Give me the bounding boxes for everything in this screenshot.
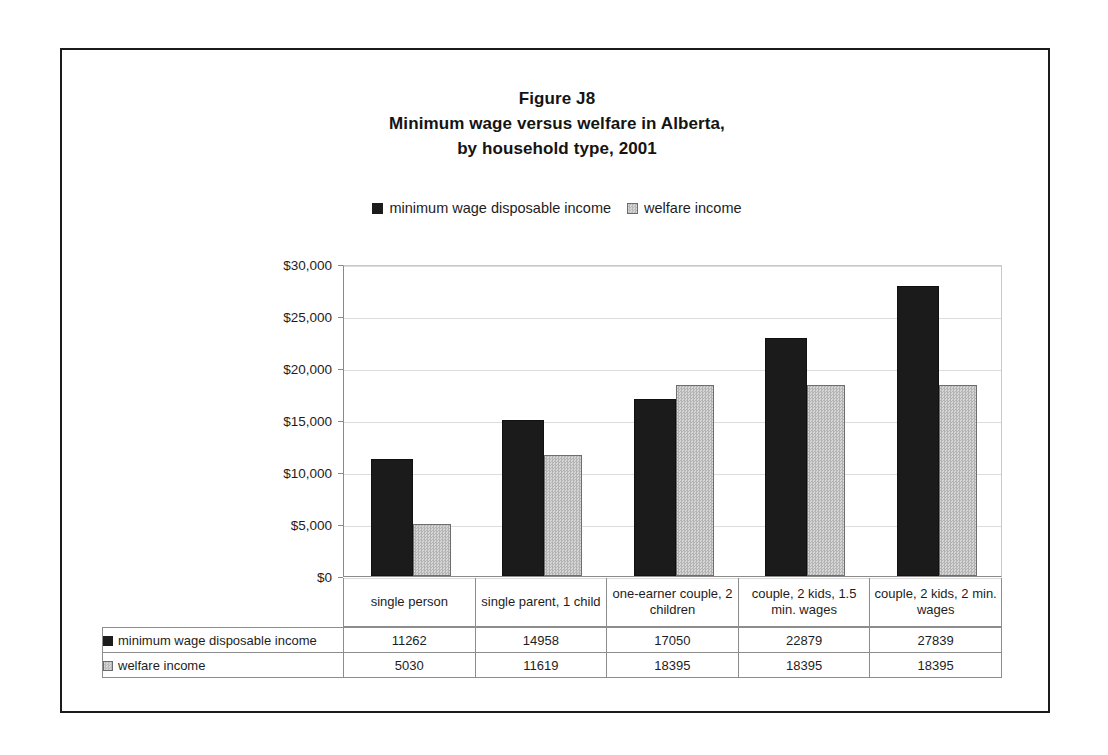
y-axis-tick-label: $0 xyxy=(317,570,332,585)
light-square-icon xyxy=(627,203,638,214)
table-series-name-cell: welfare income xyxy=(103,653,344,678)
y-axis-tick-mark xyxy=(338,421,343,422)
table-value-cell: 18395 xyxy=(607,653,739,678)
table-series-name-cell: minimum wage disposable income xyxy=(103,628,344,653)
data-table-body: minimum wage disposable income1126214958… xyxy=(103,628,1002,678)
table-series-label: welfare income xyxy=(118,658,205,673)
table-value-cell: 14958 xyxy=(475,628,607,653)
legend-entry-welfare: welfare income xyxy=(627,200,742,216)
category-axis-row: single personsingle parent, 1 childone-e… xyxy=(343,578,1002,627)
legend-label-welfare: welfare income xyxy=(644,200,742,216)
table-value-cell: 5030 xyxy=(343,653,475,678)
y-axis-tick-mark xyxy=(338,317,343,318)
chart-legend: minimum wage disposable income welfare i… xyxy=(62,200,1052,216)
table-value-cell: 17050 xyxy=(607,628,739,653)
bar-group xyxy=(344,266,475,576)
y-axis-tick-label: $5,000 xyxy=(291,518,332,533)
plot-wrap: $0$5,000$10,000$15,000$20,000$25,000$30,… xyxy=(343,265,1002,577)
y-axis-tick-label: $25,000 xyxy=(283,310,332,325)
table-value-cell: 18395 xyxy=(738,653,870,678)
table-row: welfare income503011619183951839518395 xyxy=(103,653,1002,678)
legend-label-minimum-wage: minimum wage disposable income xyxy=(389,200,611,216)
y-axis-tick-label: $20,000 xyxy=(283,362,332,377)
bars-layer xyxy=(344,266,1001,576)
figure-title-line-3: by household type, 2001 xyxy=(62,136,1052,161)
y-axis-tick-label: $30,000 xyxy=(283,258,332,273)
y-axis-tick-mark xyxy=(338,369,343,370)
bar xyxy=(807,385,845,576)
y-axis-tick-mark xyxy=(338,473,343,474)
bar xyxy=(544,455,582,576)
bar-group xyxy=(607,266,738,576)
data-table: minimum wage disposable income1126214958… xyxy=(102,627,1002,678)
dark-square-icon xyxy=(372,203,383,214)
category-label: single person xyxy=(343,578,475,626)
figure-frame: Figure J8 Minimum wage versus welfare in… xyxy=(60,48,1050,713)
y-axis-tick-mark xyxy=(338,265,343,266)
dark-square-icon xyxy=(103,636,113,646)
y-axis-tick-label: $15,000 xyxy=(283,414,332,429)
bar xyxy=(371,459,413,576)
table-value-cell: 18395 xyxy=(870,653,1002,678)
bar xyxy=(634,399,676,576)
bar-group xyxy=(738,266,869,576)
figure-title: Figure J8 Minimum wage versus welfare in… xyxy=(62,86,1052,161)
category-label: couple, 2 kids, 1.5 min. wages xyxy=(738,578,870,626)
light-square-icon xyxy=(103,661,113,671)
table-value-cell: 11619 xyxy=(475,653,607,678)
category-label: couple, 2 kids, 2 min. wages xyxy=(869,578,1002,626)
bar xyxy=(765,338,807,576)
category-label: one-earner couple, 2 children xyxy=(606,578,738,626)
table-value-cell: 27839 xyxy=(870,628,1002,653)
category-label: single parent, 1 child xyxy=(475,578,607,626)
plot-area xyxy=(343,265,1002,577)
table-value-cell: 11262 xyxy=(343,628,475,653)
bar xyxy=(413,524,451,576)
bar-group xyxy=(475,266,606,576)
table-series-label: minimum wage disposable income xyxy=(118,633,317,648)
legend-entry-minimum-wage: minimum wage disposable income xyxy=(372,200,611,216)
y-axis-tick-label: $10,000 xyxy=(283,466,332,481)
bar xyxy=(897,286,939,576)
bar xyxy=(676,385,714,576)
y-axis-tick-mark xyxy=(338,525,343,526)
table-row: minimum wage disposable income1126214958… xyxy=(103,628,1002,653)
figure-title-line-2: Minimum wage versus welfare in Alberta, xyxy=(62,111,1052,136)
bar xyxy=(502,420,544,576)
table-value-cell: 22879 xyxy=(738,628,870,653)
bar xyxy=(939,385,977,576)
figure-title-line-1: Figure J8 xyxy=(62,86,1052,111)
bar-group xyxy=(870,266,1001,576)
